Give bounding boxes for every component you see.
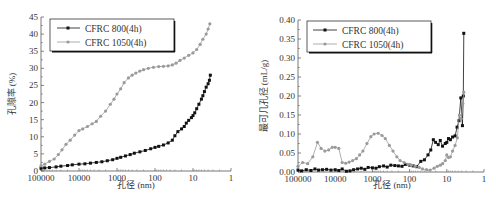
data-point — [119, 87, 122, 90]
data-point — [309, 169, 312, 172]
data-point — [64, 143, 67, 146]
data-point — [123, 81, 126, 84]
data-point — [423, 158, 426, 161]
data-point — [104, 110, 107, 113]
data-point — [401, 165, 404, 168]
data-point — [133, 152, 136, 155]
data-point — [361, 150, 364, 153]
data-point — [149, 147, 152, 150]
data-point — [174, 62, 177, 65]
data-point — [71, 163, 74, 166]
data-point — [403, 161, 406, 164]
data-point — [406, 163, 409, 166]
legend-marker-800 — [67, 27, 70, 30]
data-point — [100, 160, 103, 163]
data-point — [95, 120, 98, 123]
data-point — [456, 136, 459, 139]
data-point — [199, 43, 202, 46]
data-point — [178, 59, 181, 62]
legend-marker-800 — [324, 29, 327, 32]
data-point — [138, 69, 141, 72]
data-point — [444, 159, 447, 162]
data-point — [297, 169, 300, 172]
data-point — [439, 139, 442, 142]
legend-label-1050: CFRC 1050(4h) — [85, 38, 147, 49]
data-point — [73, 133, 76, 136]
data-point — [319, 147, 322, 150]
data-point — [393, 164, 396, 167]
data-point — [193, 111, 196, 114]
data-point — [180, 127, 183, 130]
data-point — [200, 98, 203, 101]
data-point — [69, 139, 72, 142]
left-y-axis-title: 孔隙率 (%) — [6, 73, 17, 116]
y-tick-label: 15 — [29, 115, 39, 125]
data-point — [373, 132, 376, 135]
data-point — [327, 148, 330, 151]
series-line — [298, 92, 464, 170]
data-point — [460, 117, 463, 120]
pore-volume-chart: 0.000.050.100.150.200.250.300.350.401000… — [258, 15, 486, 190]
data-point — [167, 64, 170, 67]
data-point — [375, 167, 378, 170]
data-point — [183, 125, 186, 128]
data-point — [323, 150, 326, 153]
data-point — [203, 90, 206, 93]
data-point — [432, 167, 435, 170]
data-point — [183, 56, 186, 59]
data-point — [60, 148, 63, 151]
data-point — [341, 161, 344, 164]
data-point — [445, 141, 448, 144]
data-point — [39, 164, 42, 167]
data-point — [389, 164, 392, 167]
data-point — [48, 160, 51, 163]
y-tick-label: 0.15 — [279, 110, 295, 120]
data-point — [410, 164, 413, 167]
x-tick-label: 10000 — [324, 174, 347, 184]
data-point — [344, 162, 347, 165]
data-point — [351, 159, 354, 162]
data-point — [386, 166, 389, 169]
data-point — [142, 68, 145, 71]
data-point — [449, 155, 452, 158]
data-point — [157, 145, 160, 148]
data-point — [129, 153, 132, 156]
data-point — [95, 161, 98, 164]
data-point — [382, 164, 385, 167]
data-point — [86, 125, 89, 128]
data-point — [345, 170, 348, 173]
data-point — [77, 129, 80, 132]
data-point — [429, 169, 432, 172]
porosity-chart: 051015202530354045100000100001000100101 … — [6, 12, 233, 190]
data-point — [397, 164, 400, 167]
data-point — [208, 79, 211, 82]
left-x-axis-title: 孔径 (nm) — [117, 179, 155, 190]
data-point — [171, 63, 174, 66]
data-point — [59, 165, 62, 168]
data-point — [187, 119, 190, 122]
x-tick-label: 1 — [482, 174, 487, 184]
data-point — [162, 143, 165, 146]
data-point — [134, 72, 137, 75]
data-point — [57, 153, 60, 156]
series-line — [298, 33, 464, 171]
data-point — [434, 141, 437, 144]
data-point — [111, 158, 114, 161]
legend-label-1050: CFRC 1050(4h) — [342, 40, 404, 51]
data-point — [384, 137, 387, 140]
data-point — [337, 169, 340, 172]
data-point — [144, 149, 147, 152]
data-point — [78, 163, 81, 166]
y-tick-label: 0.05 — [279, 148, 295, 158]
data-point — [296, 165, 299, 168]
data-point — [48, 166, 51, 169]
data-point — [106, 159, 109, 162]
data-point — [378, 165, 381, 168]
data-point — [356, 167, 359, 170]
data-point — [109, 103, 112, 106]
y-tick-label: 20 — [29, 98, 39, 108]
data-point — [355, 157, 358, 160]
data-point — [451, 150, 454, 153]
data-point — [348, 161, 351, 164]
data-point — [461, 102, 464, 105]
